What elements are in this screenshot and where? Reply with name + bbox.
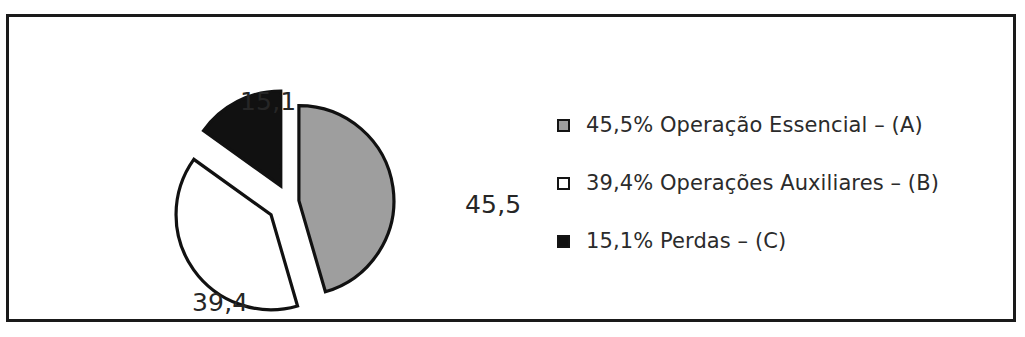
legend-label-perdas: 15,1% Perdas – (C) bbox=[586, 231, 786, 252]
legend-label-operacao-essencial: 45,5% Operação Essencial – (A) bbox=[586, 115, 923, 136]
chart-legend: 45,5% Operação Essencial – (A) 39,4% Ope… bbox=[557, 113, 977, 253]
legend-item-perdas[interactable]: 15,1% Perdas – (C) bbox=[557, 229, 977, 253]
pie-chart-plot: 15,1 45,5 39,4 bbox=[89, 39, 469, 329]
value-label-operacoes-auxiliares: 39,4 bbox=[192, 290, 248, 315]
pie-slice-operacao-essencial[interactable] bbox=[299, 106, 394, 292]
legend-swatch-gray-icon bbox=[557, 119, 570, 132]
legend-item-operacoes-auxiliares[interactable]: 39,4% Operações Auxiliares – (B) bbox=[557, 171, 977, 195]
pie-chart-svg bbox=[89, 39, 469, 329]
legend-swatch-white-icon bbox=[557, 177, 570, 190]
pie-chart-figure: 15,1 45,5 39,4 45,5% Operação Essencial … bbox=[0, 0, 1025, 337]
value-label-perdas: 15,1 bbox=[240, 89, 296, 114]
value-label-operacao-essencial: 45,5 bbox=[465, 192, 521, 217]
legend-label-operacoes-auxiliares: 39,4% Operações Auxiliares – (B) bbox=[586, 173, 939, 194]
legend-item-operacao-essencial[interactable]: 45,5% Operação Essencial – (A) bbox=[557, 113, 977, 137]
legend-swatch-black-icon bbox=[557, 235, 570, 248]
figure-border: 15,1 45,5 39,4 45,5% Operação Essencial … bbox=[6, 14, 1016, 322]
